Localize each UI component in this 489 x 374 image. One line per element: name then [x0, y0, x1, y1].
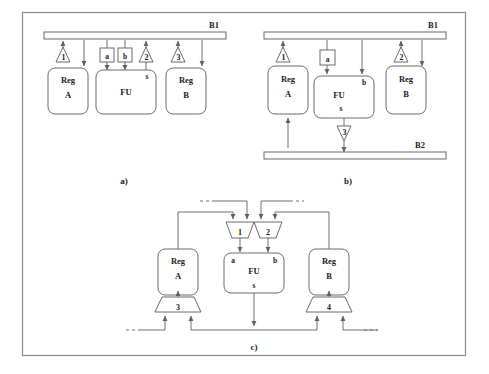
fu-in-b-label: b	[273, 256, 277, 265]
bus-b1-label: B1	[428, 20, 438, 30]
buffer-1-label: 1	[62, 53, 66, 62]
buffer-3-label: 3	[177, 53, 181, 62]
route-bottom-to-mux3-in1	[140, 316, 165, 330]
bus-b2	[264, 152, 446, 159]
block-reg-b-line1: Reg	[399, 74, 414, 84]
route-top-to-mux1-in2	[214, 201, 247, 219]
bus-b1-label: B1	[209, 20, 219, 30]
route-regb-to-mux2-in2	[275, 212, 329, 249]
figure-border	[23, 13, 466, 356]
block-reg-a-line2: A	[65, 90, 72, 100]
block-fu-label: FU	[333, 90, 344, 100]
route-rega-to-mux1-in1	[178, 212, 233, 249]
buffer-1-label: 1	[282, 53, 286, 62]
caption-c: c)	[251, 342, 258, 352]
block-reg-a-line2: A	[175, 271, 182, 281]
block-reg-b-line2: B	[403, 89, 409, 99]
figure-svg: B1 1 Reg A a b 2 FU s 3 R	[0, 0, 489, 374]
diagram-c: 1 2 Reg A FU a b s Reg B 3 4	[126, 201, 378, 352]
bus-b1	[44, 32, 226, 39]
mux-2-label: 2	[266, 228, 270, 237]
bus-b2-label: B2	[415, 140, 425, 150]
block-fu-label: FU	[120, 87, 131, 97]
fu-out-port-label: s	[146, 72, 149, 81]
diagram-b: B1 1 Reg A a FU b s 3 2 Reg B	[264, 20, 446, 186]
block-reg-b-line2: B	[326, 271, 332, 281]
block-fu-label: FU	[248, 266, 259, 276]
block-reg-a-line1: Reg	[61, 75, 76, 85]
fu-out-label: s	[340, 104, 343, 113]
block-reg-a-line1: Reg	[281, 74, 296, 84]
latch-a-label: a	[326, 55, 330, 64]
route-bottom-to-mux4-in2	[343, 316, 378, 330]
block-reg-a-line1: Reg	[171, 256, 186, 266]
caption-a: a)	[120, 176, 128, 186]
block-reg-b-line2: B	[183, 90, 189, 100]
block-reg-a-line2: A	[285, 89, 292, 99]
buffer-3-label: 3	[343, 128, 347, 137]
block-reg-b-line1: Reg	[179, 75, 194, 85]
buffer-2-label: 2	[145, 53, 149, 62]
buffer-2-label: 2	[400, 53, 404, 62]
fu-out-label: s	[253, 281, 256, 290]
diagram-a: B1 1 Reg A a b 2 FU s 3 R	[44, 20, 226, 186]
caption-b: b)	[344, 176, 352, 186]
fu-in-b-label: b	[362, 78, 366, 87]
mux-3-label: 3	[176, 303, 180, 312]
fu-in-a-label: a	[231, 256, 235, 265]
figure-canvas: B1 1 Reg A a b 2 FU s 3 R	[0, 0, 489, 374]
mux-1-label: 1	[238, 228, 242, 237]
bus-b1	[264, 32, 446, 39]
latch-a-label: a	[105, 52, 109, 61]
mux-4-label: 4	[327, 303, 331, 312]
block-reg-b-line1: Reg	[322, 256, 337, 266]
latch-b-label: b	[123, 52, 127, 61]
